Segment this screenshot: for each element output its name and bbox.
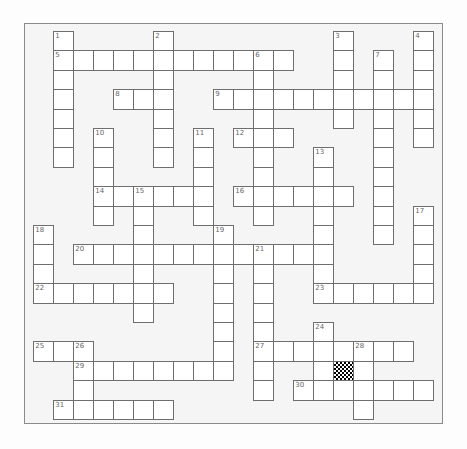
crossword-cell[interactable] — [173, 361, 194, 381]
crossword-cell[interactable]: 28 — [353, 341, 374, 361]
crossword-cell[interactable] — [333, 380, 354, 400]
crossword-cell[interactable] — [133, 225, 154, 245]
crossword-cell[interactable] — [313, 225, 334, 245]
crossword-cell[interactable]: 7 — [373, 50, 394, 70]
crossword-cell[interactable] — [173, 50, 194, 70]
crossword-cell[interactable]: 10 — [93, 128, 114, 148]
crossword-cell[interactable] — [133, 89, 154, 109]
crossword-cell[interactable] — [153, 147, 174, 167]
crossword-cell[interactable]: 3 — [333, 31, 354, 51]
crossword-cell[interactable] — [193, 186, 214, 206]
crossword-cell[interactable] — [293, 341, 314, 361]
crossword-cell[interactable] — [213, 244, 234, 264]
crossword-cell[interactable] — [313, 341, 334, 361]
crossword-cell[interactable]: 4 — [413, 31, 434, 51]
crossword-cell[interactable] — [213, 322, 234, 342]
crossword-cell[interactable] — [113, 361, 134, 381]
crossword-cell[interactable] — [253, 89, 274, 109]
crossword-cell[interactable] — [393, 341, 414, 361]
crossword-cell[interactable]: 21 — [253, 244, 274, 264]
crossword-cell[interactable] — [293, 89, 314, 109]
crossword-cell[interactable] — [413, 380, 434, 400]
crossword-cell[interactable] — [413, 128, 434, 148]
crossword-cell[interactable] — [313, 89, 334, 109]
crossword-cell[interactable] — [153, 128, 174, 148]
crossword-cell[interactable]: 30 — [293, 380, 314, 400]
crossword-cell[interactable] — [353, 283, 374, 303]
crossword-cell[interactable] — [393, 283, 414, 303]
crossword-cell[interactable] — [73, 400, 94, 420]
crossword-cell[interactable]: 2 — [153, 31, 174, 51]
crossword-cell[interactable] — [133, 50, 154, 70]
crossword-cell[interactable] — [73, 50, 94, 70]
crossword-cell[interactable] — [233, 244, 254, 264]
crossword-cell[interactable] — [113, 283, 134, 303]
crossword-cell[interactable]: 26 — [73, 341, 94, 361]
crossword-cell[interactable] — [53, 70, 74, 90]
crossword-cell[interactable]: 11 — [193, 128, 214, 148]
crossword-cell[interactable] — [233, 50, 254, 70]
crossword-cell[interactable] — [153, 283, 174, 303]
crossword-cell[interactable] — [253, 380, 274, 400]
crossword-cell[interactable] — [93, 50, 114, 70]
crossword-cell[interactable] — [73, 283, 94, 303]
crossword-cell[interactable]: 18 — [33, 225, 54, 245]
crossword-cell[interactable] — [33, 244, 54, 264]
crossword-cell[interactable] — [173, 186, 194, 206]
crossword-cell[interactable] — [213, 283, 234, 303]
crossword-cell[interactable] — [353, 361, 374, 381]
crossword-cell[interactable] — [293, 244, 314, 264]
crossword-cell[interactable]: 23 — [313, 283, 334, 303]
crossword-cell[interactable]: 13 — [313, 147, 334, 167]
crossword-cell[interactable] — [153, 186, 174, 206]
crossword-cell[interactable] — [213, 264, 234, 284]
crossword-cell[interactable] — [253, 167, 274, 187]
crossword-cell[interactable]: 15 — [133, 186, 154, 206]
crossword-cell[interactable]: 25 — [33, 341, 54, 361]
crossword-cell[interactable] — [133, 283, 154, 303]
crossword-cell[interactable] — [253, 303, 274, 323]
crossword-cell[interactable]: 31 — [53, 400, 74, 420]
crossword-cell[interactable] — [253, 128, 274, 148]
crossword-cell[interactable] — [353, 380, 374, 400]
crossword-cell[interactable] — [233, 89, 254, 109]
crossword-cell[interactable] — [373, 341, 394, 361]
crossword-cell[interactable]: 14 — [93, 186, 114, 206]
crossword-cell[interactable] — [373, 167, 394, 187]
crossword-cell[interactable] — [273, 89, 294, 109]
crossword-cell[interactable] — [373, 283, 394, 303]
crossword-cell[interactable] — [53, 283, 74, 303]
crossword-cell[interactable] — [253, 147, 274, 167]
crossword-cell[interactable] — [333, 186, 354, 206]
crossword-cell[interactable] — [413, 70, 434, 90]
crossword-cell[interactable] — [393, 89, 414, 109]
crossword-cell[interactable] — [193, 206, 214, 226]
crossword-cell[interactable] — [253, 206, 274, 226]
crossword-cell[interactable] — [153, 109, 174, 129]
crossword-cell[interactable] — [313, 264, 334, 284]
crossword-cell[interactable] — [133, 303, 154, 323]
crossword-cell[interactable] — [153, 400, 174, 420]
crossword-cell[interactable] — [133, 206, 154, 226]
crossword-cell[interactable]: 29 — [73, 361, 94, 381]
crossword-cell[interactable] — [273, 50, 294, 70]
crossword-cell[interactable] — [273, 244, 294, 264]
crossword-cell[interactable] — [413, 109, 434, 129]
crossword-cell[interactable] — [253, 283, 274, 303]
crossword-cell[interactable] — [133, 264, 154, 284]
crossword-cell[interactable]: 12 — [233, 128, 254, 148]
crossword-cell[interactable] — [93, 206, 114, 226]
crossword-cell[interactable]: 17 — [413, 206, 434, 226]
crossword-cell[interactable] — [333, 341, 354, 361]
crossword-cell[interactable] — [333, 70, 354, 90]
crossword-cell[interactable]: 19 — [213, 225, 234, 245]
crossword-cell[interactable] — [113, 50, 134, 70]
crossword-cell[interactable]: 1 — [53, 31, 74, 51]
crossword-cell[interactable] — [253, 186, 274, 206]
crossword-cell[interactable] — [133, 400, 154, 420]
crossword-cell[interactable] — [93, 400, 114, 420]
crossword-cell[interactable] — [413, 89, 434, 109]
crossword-cell[interactable] — [153, 70, 174, 90]
crossword-cell[interactable] — [413, 283, 434, 303]
crossword-cell[interactable] — [213, 361, 234, 381]
